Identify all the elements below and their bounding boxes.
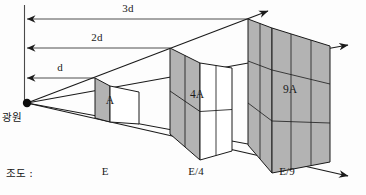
distance-label-3d: 3d [122,2,133,14]
panel-area-label-4a: 4A [190,88,204,100]
panel-area-label-9a: 9A [283,83,297,95]
light-source-point [23,99,31,107]
illuminance-row-label: 조도 : [6,165,33,180]
diagram-canvas [0,0,366,195]
panel-4a-shape [170,48,232,160]
distance-label-d: d [57,61,63,73]
illuminance-value-e9: E/9 [279,165,294,177]
panel-area-label-a: A [106,94,114,106]
panel-a-shape [95,78,139,124]
illuminance-value-e: E [102,165,109,177]
illuminance-value-e4: E/4 [188,165,203,177]
distance-label-2d: 2d [91,31,102,43]
panel-9a-shape [248,19,330,173]
light-inverse-square-law-diagram: d 2d 3d A 4A 9A 광원 조도 : E E/4 E/9 [0,0,366,195]
light-source-label: 광원 [2,109,22,124]
